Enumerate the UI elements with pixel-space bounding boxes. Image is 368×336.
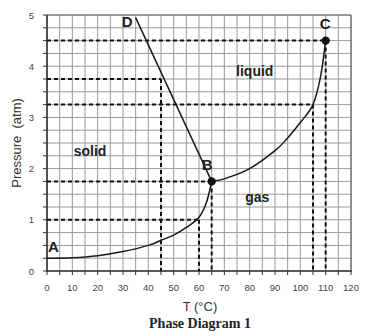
x-tick-label: 50 [168, 282, 179, 293]
y-tick-label: 1 [29, 214, 34, 225]
x-tick-label: 40 [143, 282, 154, 293]
chart-title: Phase Diagram 1 [149, 316, 251, 331]
x-tick-label: 110 [318, 282, 333, 293]
point-label-d: D [122, 13, 133, 30]
y-tick-label: 2 [29, 163, 34, 174]
point-marker-b [207, 177, 215, 185]
region-label-gas: gas [245, 189, 269, 205]
x-tick-label: 120 [343, 282, 359, 293]
x-tick-label: 10 [67, 282, 78, 293]
point-label-b: B [202, 156, 213, 173]
x-tick-label: 20 [92, 282, 103, 293]
x-tick-label: 60 [194, 282, 205, 293]
region-label-liquid: liquid [236, 63, 273, 79]
y-axis-label: Pressure (atm) [9, 98, 24, 188]
point-label-c: C [320, 15, 331, 32]
x-tick-label: 30 [118, 282, 129, 293]
y-tick-label: 5 [29, 10, 34, 21]
point-marker-c [321, 36, 329, 44]
x-axis-label: T (°C) [183, 299, 218, 314]
x-tick-label: 90 [270, 282, 281, 293]
phase-curve [212, 41, 326, 182]
x-tick-label: 0 [44, 282, 49, 293]
y-tick-label: 4 [29, 61, 34, 72]
x-tick-label: 100 [292, 282, 308, 293]
phase-diagram-chart: 0102030405060708090100110120012345 ABCD … [0, 0, 368, 336]
y-tick-label: 0 [29, 266, 34, 277]
x-tick-label: 80 [244, 282, 255, 293]
point-label-a: A [48, 238, 59, 255]
region-label-solid: solid [74, 143, 107, 159]
y-tick-label: 3 [29, 112, 34, 123]
x-tick-label: 70 [219, 282, 230, 293]
